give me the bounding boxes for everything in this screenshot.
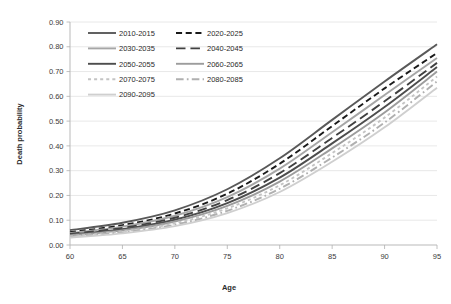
x-tick-label: 85 — [328, 252, 336, 261]
x-axis-title: Age — [222, 283, 236, 292]
legend-label-2050-2055: 2050-2055 — [119, 60, 155, 69]
y-tick-label: 0.10 — [49, 216, 64, 225]
series-line-2070-2075 — [70, 77, 437, 237]
x-tick-label: 65 — [118, 252, 126, 261]
series-line-2010-2015 — [70, 44, 437, 230]
y-axis-title: Death probability — [15, 103, 24, 165]
legend-label-2010-2015: 2010-2015 — [119, 29, 155, 38]
legend-label-2040-2045: 2040-2045 — [207, 44, 243, 53]
chart-container: 0.000.100.200.300.400.500.600.700.800.90… — [0, 0, 451, 304]
y-tick-label: 0.60 — [49, 92, 64, 101]
series-line-2090-2095 — [70, 88, 437, 238]
y-tick-label: 0.30 — [49, 166, 64, 175]
series-lines — [70, 44, 437, 237]
legend-label-2030-2035: 2030-2035 — [119, 44, 155, 53]
y-tick-label: 0.40 — [49, 142, 64, 151]
y-tick-label: 0.70 — [49, 67, 64, 76]
series-line-2080-2085 — [70, 81, 437, 236]
y-tick-label: 0.20 — [49, 191, 64, 200]
legend-label-2090-2095: 2090-2095 — [119, 90, 155, 99]
legend-label-2080-2085: 2080-2085 — [207, 75, 243, 84]
x-tick-label: 70 — [171, 252, 179, 261]
y-tick-label: 0.50 — [49, 117, 64, 126]
chart-legend: 2010-20152020-20252030-20352040-20452050… — [88, 29, 243, 100]
x-tick-label: 80 — [276, 252, 284, 261]
y-tick-label: 0.90 — [49, 18, 64, 27]
x-tick-label: 95 — [433, 252, 441, 261]
legend-label-2020-2025: 2020-2025 — [207, 29, 243, 38]
series-line-2040-2045 — [70, 63, 437, 234]
y-axis-tick-labels: 0.000.100.200.300.400.500.600.700.800.90 — [49, 18, 64, 250]
x-tick-label: 60 — [66, 252, 74, 261]
x-axis-tick-labels: 6065707580859095 — [66, 252, 441, 261]
y-tick-label: 0.00 — [49, 241, 64, 250]
death-probability-line-chart: 0.000.100.200.300.400.500.600.700.800.90… — [0, 0, 451, 304]
legend-label-2070-2075: 2070-2075 — [119, 75, 155, 84]
y-tick-label: 0.80 — [49, 42, 64, 51]
x-tick-label: 90 — [380, 252, 388, 261]
legend-label-2060-2065: 2060-2065 — [207, 60, 243, 69]
plot-frame — [67, 22, 438, 249]
x-tick-label: 75 — [223, 252, 231, 261]
